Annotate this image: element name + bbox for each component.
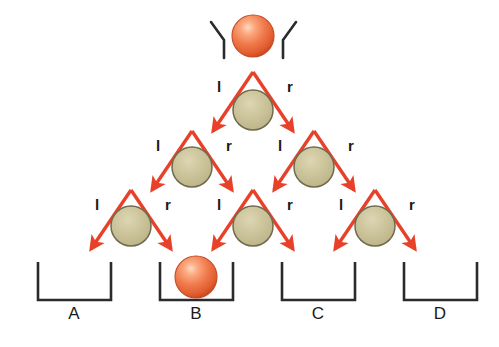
ball-source <box>232 15 274 57</box>
label-r3c-r: r <box>409 197 415 212</box>
bin-c-label: C <box>312 305 324 322</box>
label-r3a-l: l <box>95 197 99 212</box>
hopper-left-arm <box>211 22 224 58</box>
label-r3c-l: l <box>339 197 343 212</box>
hopper-right-arm <box>283 22 296 58</box>
ball-result <box>175 256 217 298</box>
peg <box>111 206 151 246</box>
label-r3a-r: r <box>165 197 171 212</box>
peg <box>233 90 273 130</box>
galton-board-diagram: lrlrlrlrlrlrABCD <box>0 0 499 347</box>
peg <box>172 147 212 187</box>
bins-group <box>38 262 477 300</box>
bin-d-label: D <box>434 305 446 322</box>
label-r3b-l: l <box>217 197 221 212</box>
label-r2a-l: l <box>156 138 160 153</box>
label-r3b-r: r <box>287 197 293 212</box>
peg <box>355 206 395 246</box>
label-r1-l: l <box>217 79 221 94</box>
peg <box>233 206 273 246</box>
bin-b-label: B <box>190 305 201 322</box>
bin-a <box>38 262 111 300</box>
label-r2b-l: l <box>278 138 282 153</box>
label-r1-r: r <box>287 79 293 94</box>
label-r2a-r: r <box>226 138 232 153</box>
diagram-canvas <box>0 0 499 347</box>
peg <box>294 147 334 187</box>
bin-a-label: A <box>68 305 79 322</box>
label-r2b-r: r <box>348 138 354 153</box>
bin-c <box>282 262 355 300</box>
bin-d <box>404 262 477 300</box>
